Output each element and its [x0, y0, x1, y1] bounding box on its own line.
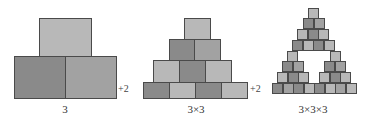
block [39, 18, 92, 57]
block [143, 82, 170, 99]
block [184, 18, 211, 40]
block [221, 82, 248, 99]
block [335, 61, 346, 72]
block [308, 29, 319, 40]
block [194, 39, 221, 61]
block [313, 40, 324, 51]
block [303, 18, 314, 29]
block [324, 40, 335, 51]
block [179, 60, 206, 83]
block [169, 39, 195, 61]
block [330, 72, 341, 83]
block [14, 56, 66, 99]
block [169, 82, 196, 99]
block [303, 40, 314, 51]
block [153, 60, 180, 83]
block [283, 83, 294, 94]
block [292, 40, 303, 51]
block [335, 83, 346, 94]
caption-3x3x3: 3×3×3 [299, 103, 328, 115]
block [282, 61, 293, 72]
block [346, 83, 357, 94]
plus-two-label: +2 [118, 83, 129, 94]
block [293, 83, 304, 94]
block [195, 82, 222, 99]
block [293, 61, 304, 72]
block [325, 83, 336, 94]
caption-3x3: 3×3 [187, 103, 204, 115]
tower-diagram: 3 3×3 3×3×3 +2 +2 [0, 0, 371, 122]
caption-3: 3 [62, 103, 68, 115]
block [65, 56, 117, 99]
block [319, 72, 330, 83]
block [314, 18, 325, 29]
plus-two-label: +2 [250, 83, 261, 94]
block [298, 72, 309, 83]
block [205, 60, 232, 83]
block [324, 61, 335, 72]
block [272, 83, 283, 94]
block [297, 29, 308, 40]
block [277, 72, 288, 83]
block [304, 83, 315, 94]
block [318, 29, 329, 40]
block [288, 72, 299, 83]
block [340, 72, 351, 83]
block [314, 83, 325, 94]
